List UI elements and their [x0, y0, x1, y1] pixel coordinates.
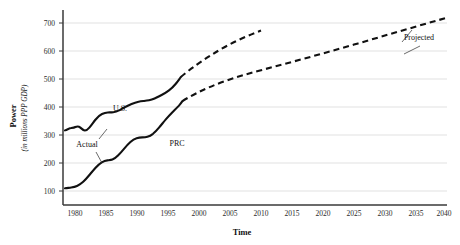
- series-prc-projected: [182, 18, 446, 101]
- leader-projected-lower: [404, 46, 420, 54]
- x-tick-label: 2010: [254, 209, 269, 218]
- annotation-label-projected: Projected: [404, 33, 434, 42]
- x-tick-label: 1995: [161, 209, 176, 218]
- x-axis-title: Time: [233, 227, 252, 237]
- x-tick-label: 2025: [347, 209, 362, 218]
- y-tick-label: 100: [44, 187, 56, 196]
- y-tick-label: 300: [44, 131, 56, 140]
- x-tick-label: 1990: [130, 209, 145, 218]
- x-tick-label: 2030: [378, 209, 393, 218]
- y-tick-label: 700: [44, 19, 56, 28]
- x-tick-label: 2040: [437, 209, 452, 218]
- y-tick-label: 500: [44, 75, 56, 84]
- x-tick-label: 2015: [285, 209, 300, 218]
- annotation-actual: Actual: [76, 129, 107, 163]
- x-tick-labels: 1980 1985 1990 1995 2000 2005 2010 2015 …: [68, 209, 452, 218]
- annotation-projected: Projected: [402, 30, 434, 54]
- annotation-label-actual: Actual: [76, 140, 98, 149]
- x-tick-label: 1980: [68, 209, 83, 218]
- series-label-prc: PRC: [169, 139, 184, 148]
- x-tick-label: 2000: [192, 209, 207, 218]
- x-tick-label: 2035: [409, 209, 424, 218]
- y-axis-subtitle: (in millions PPP GDP): [21, 84, 29, 151]
- leader-actual-lower: [96, 152, 102, 163]
- chart-figure: 100 200 300 400 500 600 700 1980 1985 19…: [0, 0, 460, 245]
- x-tick-label: 2005: [223, 209, 238, 218]
- y-tick-labels: 100 200 300 400 500 600 700: [44, 19, 56, 196]
- y-tick-label: 400: [44, 103, 56, 112]
- x-tick-label: 1985: [99, 209, 114, 218]
- leader-actual-upper: [99, 129, 107, 139]
- series-label-us: U.S.: [113, 104, 127, 113]
- y-tick-label: 600: [44, 47, 56, 56]
- y-axis-title: Power: [8, 104, 18, 127]
- x-tick-label: 2020: [316, 209, 331, 218]
- chart-svg: 100 200 300 400 500 600 700 1980 1985 19…: [0, 0, 460, 245]
- y-tick-label: 200: [44, 159, 56, 168]
- series-us-projected: [181, 31, 261, 77]
